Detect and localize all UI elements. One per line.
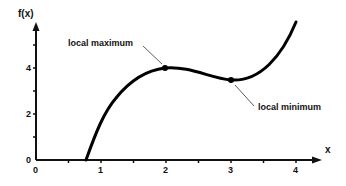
local-minimum-leader [235, 85, 254, 106]
y-tick-label: 4 [26, 63, 31, 73]
local-maximum-point [162, 65, 168, 71]
x-tick-label: 0 [33, 165, 38, 175]
function-chart: 0 2 4 0 1 2 3 4 f(x) x local maximum loc… [0, 0, 346, 186]
x-tick-label: 1 [98, 165, 103, 175]
y-tick-label: 0 [26, 155, 31, 165]
y-tick-label: 2 [26, 109, 31, 119]
y-axis-arrow-icon [33, 22, 40, 31]
x-tick-label: 4 [293, 165, 298, 175]
local-maximum-label: local maximum [68, 38, 133, 48]
x-axis-arrow-icon [312, 157, 322, 164]
local-minimum-label: local minimum [258, 102, 321, 112]
x-axis-label: x [325, 144, 331, 155]
x-tick-label: 3 [228, 165, 233, 175]
local-minimum-point [228, 77, 234, 83]
local-maximum-leader [143, 46, 162, 64]
x-tick-label: 2 [163, 165, 168, 175]
y-axis-label: f(x) [18, 8, 34, 19]
